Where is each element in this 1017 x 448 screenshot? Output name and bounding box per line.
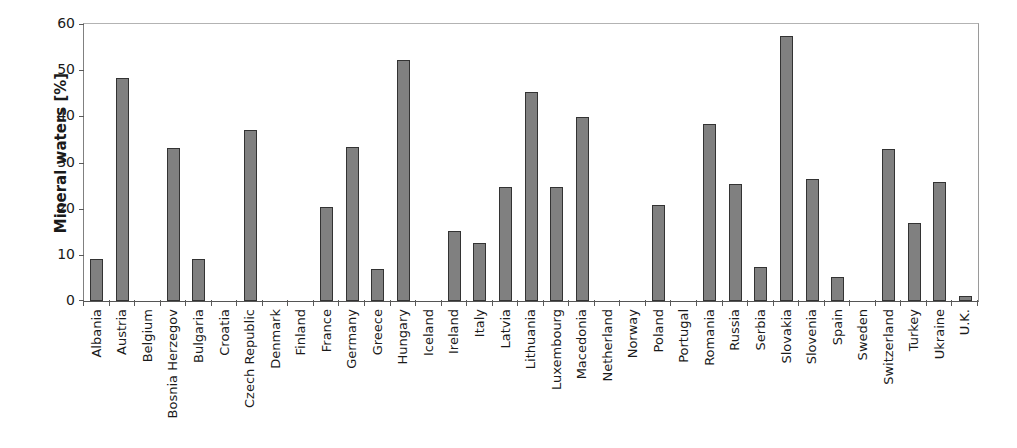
x-axis-label-cell: Turkey bbox=[901, 309, 927, 439]
y-axis-tick-mark bbox=[79, 70, 84, 71]
x-axis-label-cell: Bulgaria bbox=[185, 309, 211, 439]
x-axis-label-cell: Netherland bbox=[594, 309, 620, 439]
bar-group bbox=[723, 24, 749, 301]
x-axis-tick-mark bbox=[338, 300, 339, 306]
x-axis-tick-mark bbox=[670, 300, 671, 306]
x-axis-tick-label: Poland bbox=[651, 309, 664, 352]
x-axis-label-cell: Spain bbox=[824, 309, 850, 439]
bar bbox=[780, 36, 793, 301]
x-axis-tick-mark bbox=[492, 300, 493, 306]
x-axis-tick-label: Switzerland bbox=[881, 309, 894, 385]
x-axis-tick-label: Ireland bbox=[447, 309, 460, 354]
x-axis-label-cell: Sweden bbox=[849, 309, 875, 439]
x-axis-label-cell: Romania bbox=[696, 309, 722, 439]
x-axis-label-cell: U.K. bbox=[952, 309, 978, 439]
bar-group bbox=[646, 24, 672, 301]
x-axis-tick-label: Slovenia bbox=[805, 309, 818, 364]
y-axis-tick-labels: 0102030405060 bbox=[47, 23, 75, 300]
x-axis-tick-label: Italy bbox=[472, 309, 485, 337]
y-axis-tick-mark bbox=[79, 24, 84, 25]
bar-group bbox=[595, 24, 621, 301]
y-axis-tick-mark bbox=[79, 116, 84, 117]
x-axis-tick-mark bbox=[517, 300, 518, 306]
x-axis-label-cell: France bbox=[313, 309, 339, 439]
x-axis-ticks bbox=[83, 300, 977, 306]
x-axis-tick-mark bbox=[824, 300, 825, 306]
x-axis-label-cell: Serbia bbox=[747, 309, 773, 439]
bar-group bbox=[84, 24, 110, 301]
x-axis-tick-label: Croatia bbox=[217, 309, 230, 356]
x-axis-tick-mark bbox=[619, 300, 620, 306]
x-axis-tick-mark bbox=[951, 300, 952, 306]
bar-group bbox=[876, 24, 902, 301]
x-axis-tick-label: Norway bbox=[626, 309, 639, 358]
bar-group bbox=[339, 24, 365, 301]
bar bbox=[244, 130, 257, 301]
x-axis-tick-label: Iceland bbox=[421, 309, 434, 356]
x-axis-tick-mark bbox=[798, 300, 799, 306]
bar-group bbox=[237, 24, 263, 301]
y-axis-tick-mark bbox=[79, 209, 84, 210]
x-axis-tick-mark bbox=[313, 300, 314, 306]
bar bbox=[397, 60, 410, 301]
x-axis-label-cell: Macedonia bbox=[568, 309, 594, 439]
bar bbox=[116, 78, 129, 301]
y-axis-tick-mark bbox=[79, 255, 84, 256]
bar-group bbox=[672, 24, 698, 301]
x-axis-tick-label: Netherland bbox=[600, 309, 613, 381]
x-axis-tick-labels: AlbaniaAustriaBelgiumBosnia HerzegovBulg… bbox=[83, 309, 977, 439]
bar bbox=[882, 149, 895, 301]
x-axis-tick-mark bbox=[160, 300, 161, 306]
x-axis-tick-label: Hungary bbox=[396, 309, 409, 365]
bar bbox=[703, 124, 716, 301]
y-axis-tick-label: 10 bbox=[47, 247, 75, 261]
x-axis-tick-label: Austria bbox=[115, 309, 128, 355]
x-axis-tick-label: Luxembourg bbox=[549, 309, 562, 390]
bar bbox=[346, 147, 359, 301]
x-axis-label-cell: Bosnia Herzegov bbox=[160, 309, 186, 439]
x-axis-tick-mark bbox=[568, 300, 569, 306]
bar-group bbox=[416, 24, 442, 301]
bar-group bbox=[953, 24, 979, 301]
y-axis-tick-label: 20 bbox=[47, 201, 75, 215]
bar-group bbox=[288, 24, 314, 301]
x-axis-label-cell: Switzerland bbox=[875, 309, 901, 439]
x-axis-tick-label: U.K. bbox=[958, 309, 971, 335]
x-axis-tick-mark bbox=[543, 300, 544, 306]
bar-group bbox=[391, 24, 417, 301]
x-axis-tick-mark bbox=[875, 300, 876, 306]
x-axis-label-cell: Luxembourg bbox=[543, 309, 569, 439]
y-axis-tick-label: 40 bbox=[47, 108, 75, 122]
x-axis-tick-label: Spain bbox=[830, 309, 843, 345]
x-axis-tick-mark bbox=[773, 300, 774, 306]
x-axis-tick-mark bbox=[287, 300, 288, 306]
x-axis-tick-mark bbox=[415, 300, 416, 306]
x-axis-label-cell: Albania bbox=[83, 309, 109, 439]
x-axis-label-cell: Italy bbox=[466, 309, 492, 439]
x-axis-tick-mark bbox=[390, 300, 391, 306]
bar bbox=[371, 269, 384, 301]
x-axis-label-cell: Finland bbox=[287, 309, 313, 439]
x-axis-label-cell: Iceland bbox=[415, 309, 441, 439]
bar-group bbox=[927, 24, 953, 301]
x-axis-tick-mark bbox=[977, 300, 978, 306]
x-axis-label-cell: Norway bbox=[619, 309, 645, 439]
x-axis-tick-mark bbox=[849, 300, 850, 306]
x-axis-tick-label: Germany bbox=[345, 309, 358, 369]
bar bbox=[908, 223, 921, 301]
bar bbox=[320, 207, 333, 301]
x-axis-tick-mark bbox=[211, 300, 212, 306]
bar-group bbox=[493, 24, 519, 301]
bar-group bbox=[902, 24, 928, 301]
bar-group bbox=[467, 24, 493, 301]
bar-group bbox=[620, 24, 646, 301]
bar-chart-figure: Mineral waters [%] 0102030405060 Albania… bbox=[0, 0, 1017, 448]
bar-group bbox=[442, 24, 468, 301]
x-axis-tick-mark bbox=[594, 300, 595, 306]
x-axis-tick-mark bbox=[645, 300, 646, 306]
bar-group bbox=[212, 24, 238, 301]
x-axis-tick-label: Macedonia bbox=[575, 309, 588, 379]
bar bbox=[754, 267, 767, 301]
x-axis-tick-mark bbox=[109, 300, 110, 306]
x-axis-tick-label: Serbia bbox=[753, 309, 766, 350]
